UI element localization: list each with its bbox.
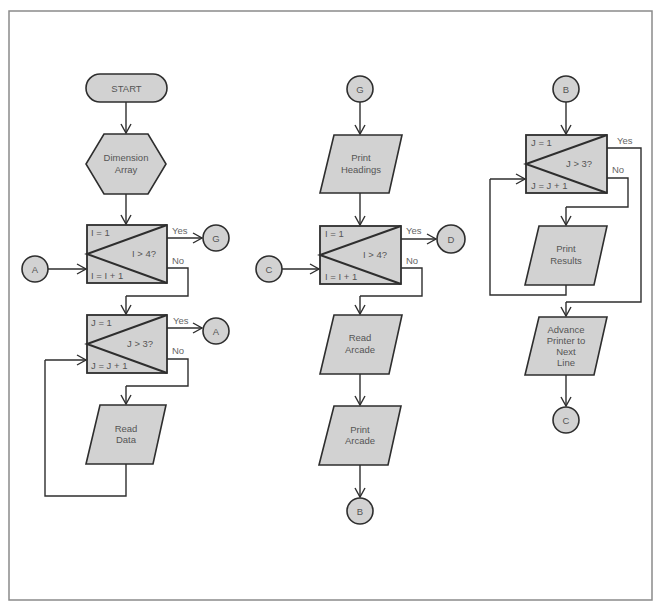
connector-a-out[interactable]: A bbox=[203, 318, 229, 344]
print-headings-io: Print Headings bbox=[320, 135, 402, 193]
connector-b-out[interactable]: B bbox=[347, 498, 373, 524]
advance-printer-line-4: Line bbox=[557, 357, 575, 368]
loop-i-box-1: I = 1 I > 4? I = I + 1 bbox=[87, 225, 167, 283]
connector-label: G bbox=[356, 84, 363, 95]
read-data-line-1: Read bbox=[115, 423, 138, 434]
loop-incr-label: I = I + 1 bbox=[91, 270, 123, 281]
loop-init-label: J = 1 bbox=[91, 317, 112, 328]
yes-label: Yes bbox=[406, 225, 422, 236]
loop-test-label: J > 3? bbox=[566, 158, 592, 169]
connector-g-in[interactable]: G bbox=[347, 76, 373, 102]
connector-label: D bbox=[448, 234, 455, 245]
read-data-io: Read Data bbox=[86, 405, 166, 464]
no-label: No bbox=[612, 164, 624, 175]
no-label: No bbox=[406, 255, 418, 266]
connector-label: B bbox=[357, 506, 363, 517]
dimension-array-line-1: Dimension bbox=[104, 152, 149, 163]
advance-printer-io: Advance Printer to Next Line bbox=[525, 317, 607, 375]
loop-init-label: J = 1 bbox=[531, 137, 552, 148]
dimension-array-preparation: Dimension Array bbox=[86, 134, 166, 194]
yes-label: Yes bbox=[173, 315, 189, 326]
connector-c-in[interactable]: C bbox=[256, 256, 282, 282]
print-results-line-1: Print bbox=[556, 243, 576, 254]
loop-incr-label: J = J + 1 bbox=[91, 360, 127, 371]
print-results-io: Print Results bbox=[525, 226, 607, 285]
connector-label: A bbox=[213, 326, 220, 337]
loop-incr-label: I = I + 1 bbox=[325, 271, 357, 282]
connector-label: C bbox=[266, 264, 273, 275]
connector-d-out[interactable]: D bbox=[437, 225, 465, 253]
connector-g-out[interactable]: G bbox=[203, 225, 229, 251]
advance-printer-line-3: Next bbox=[556, 346, 576, 357]
print-arcade-line-2: Arcade bbox=[345, 435, 375, 446]
no-label: No bbox=[172, 345, 184, 356]
loop-j-box-2: J = 1 J > 3? J = J + 1 bbox=[526, 135, 607, 193]
advance-printer-line-2: Printer to bbox=[547, 335, 586, 346]
flowchart-canvas: START Dimension Array I = 1 I > 4? I = I… bbox=[0, 0, 663, 608]
loop-test-label: J > 3? bbox=[127, 338, 153, 349]
print-headings-line-1: Print bbox=[351, 152, 371, 163]
no-label: No bbox=[172, 255, 184, 266]
connector-label: B bbox=[563, 84, 569, 95]
loop-i-box-2: I = 1 I > 4? I = I + 1 bbox=[320, 226, 401, 284]
advance-printer-line-1: Advance bbox=[548, 324, 585, 335]
connector-label: C bbox=[563, 415, 570, 426]
connector-c-out[interactable]: C bbox=[553, 407, 579, 433]
print-results-line-2: Results bbox=[550, 255, 582, 266]
connector-label: G bbox=[212, 233, 219, 244]
read-data-line-2: Data bbox=[116, 434, 137, 445]
loop-init-label: I = 1 bbox=[91, 227, 110, 238]
loop-test-label: I > 4? bbox=[132, 248, 156, 259]
read-arcade-line-1: Read bbox=[349, 332, 372, 343]
connector-b-in[interactable]: B bbox=[553, 76, 579, 102]
print-arcade-io: Print Arcade bbox=[319, 406, 401, 465]
yes-label: Yes bbox=[172, 225, 188, 236]
connector-a-in[interactable]: A bbox=[22, 256, 48, 282]
loop-incr-label: J = J + 1 bbox=[531, 180, 567, 191]
loop-test-label: I > 4? bbox=[363, 249, 387, 260]
dimension-array-line-2: Array bbox=[115, 164, 138, 175]
print-arcade-line-1: Print bbox=[350, 424, 370, 435]
connector-label: A bbox=[32, 264, 39, 275]
start-label: START bbox=[111, 83, 141, 94]
yes-label: Yes bbox=[617, 135, 633, 146]
print-headings-line-2: Headings bbox=[341, 164, 381, 175]
read-arcade-line-2: Arcade bbox=[345, 344, 375, 355]
loop-init-label: I = 1 bbox=[325, 228, 344, 239]
loop-j-box-1: J = 1 J > 3? J = J + 1 bbox=[87, 315, 167, 373]
start-terminal: START bbox=[86, 74, 167, 102]
read-arcade-io: Read Arcade bbox=[320, 315, 402, 374]
